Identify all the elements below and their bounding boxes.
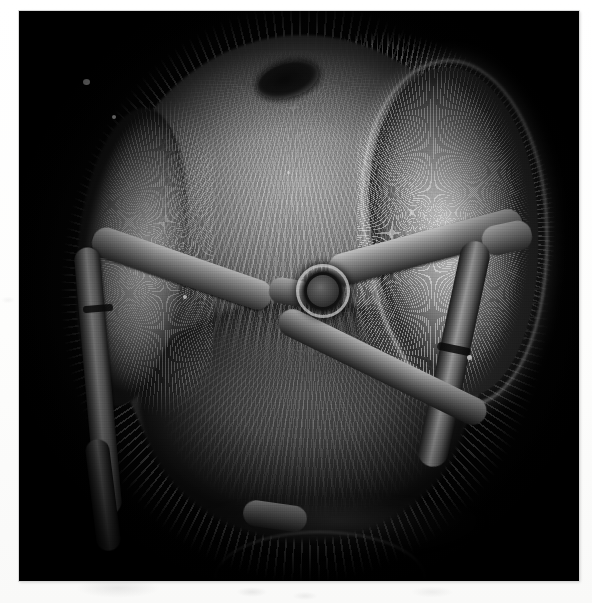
specular-speck — [183, 295, 187, 299]
specular-speck — [83, 79, 90, 85]
specular-speck — [112, 115, 116, 119]
antennal-socket-inner — [307, 275, 339, 307]
specular-speck — [467, 355, 472, 360]
specular-speck — [287, 171, 290, 174]
micrograph-plate — [19, 11, 579, 581]
